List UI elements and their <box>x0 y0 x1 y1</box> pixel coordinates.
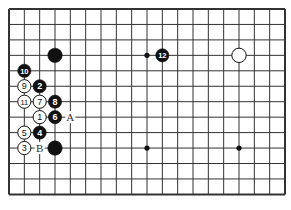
hoshi-point <box>144 53 149 58</box>
hoshi-point <box>236 145 241 150</box>
move-number: 5 <box>22 128 27 138</box>
black-stone <box>48 141 62 155</box>
move-number: 7 <box>37 97 42 107</box>
move-number: 9 <box>22 81 27 91</box>
move-number: 2 <box>37 81 42 91</box>
move-number: 11 <box>20 98 28 107</box>
move-number: 12 <box>158 51 166 60</box>
move-number: 8 <box>52 97 57 107</box>
black-stone <box>48 48 62 62</box>
go-board-diagram: AB121092117816543 <box>0 0 291 210</box>
mark-label-b: B <box>36 142 43 154</box>
move-number: 6 <box>52 112 57 122</box>
move-number: 4 <box>37 128 42 138</box>
move-number: 3 <box>22 143 27 153</box>
white-stone <box>232 48 246 62</box>
hoshi-point <box>144 145 149 150</box>
move-number: 10 <box>20 67 28 76</box>
mark-label-a: A <box>66 111 74 123</box>
move-number: 1 <box>37 112 42 122</box>
